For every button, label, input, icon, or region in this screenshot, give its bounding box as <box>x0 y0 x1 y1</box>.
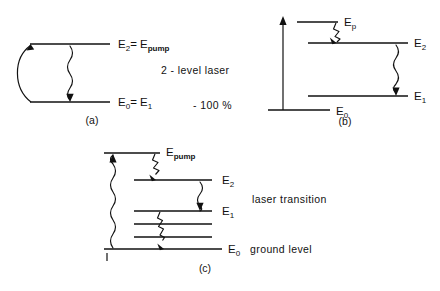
energy-level-diagram: E2= Epump E0= E1 2 - level laser - 100 %… <box>0 0 440 291</box>
panel-c-label-lower: E1 <box>222 205 235 220</box>
panel-c-note-laser-transition: laser transition <box>252 193 327 205</box>
panel-a-pump-curved-arrow <box>17 46 31 103</box>
panel-b-pump-arrowhead <box>279 16 286 25</box>
panel-a-emission-wavy-arrow <box>68 46 73 100</box>
panel-b-label-pump: Ep <box>344 16 357 31</box>
panel-a-label-upper: E2= Epump <box>118 38 170 53</box>
panel-c-label-pump: Epump <box>166 146 196 161</box>
panel-a: E2= Epump E0= E1 2 - level laser - 100 %… <box>17 38 232 126</box>
panel-c-relaxation-top-zigzag-arrow <box>153 154 160 175</box>
panel-c-note-ground-level: ground level <box>250 243 312 255</box>
panel-a-caption: (a) <box>86 114 99 126</box>
panel-c-caption: (c) <box>199 262 211 274</box>
panel-b-laser-arrowhead <box>392 88 399 96</box>
panel-b: Ep E2 E1 E0 (b) <box>268 16 427 127</box>
panel-c: Epump E2 E1 E0 laser transition ground l… <box>104 146 327 274</box>
panel-b-relaxation-zigzag-arrow <box>334 23 341 42</box>
panel-c-label-upper: E2 <box>222 174 235 189</box>
panel-a-note-primary: 2 - level laser <box>161 64 230 76</box>
panel-a-emission-arrowhead <box>66 94 73 102</box>
panel-a-label-lower: E0= E1 <box>118 96 153 111</box>
panel-a-note-secondary: - 100 % <box>193 99 232 111</box>
panel-b-caption: (b) <box>339 115 352 127</box>
panel-b-laser-wavy-arrow <box>394 45 399 93</box>
panel-c-laser-arrowhead <box>196 203 203 211</box>
panel-b-label-lower: E1 <box>414 90 427 105</box>
panel-c-label-ground: E0 <box>228 243 241 258</box>
panel-c-pump-wavy-arrow <box>111 155 116 248</box>
panel-b-label-upper: E2 <box>414 37 427 52</box>
figure-root: E2= Epump E0= E1 2 - level laser - 100 %… <box>0 0 440 291</box>
